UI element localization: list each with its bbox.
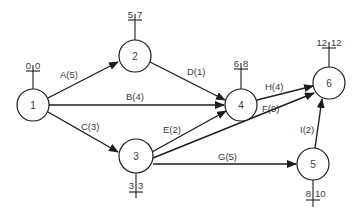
edge-label-h: H(4) (265, 81, 283, 92)
time-marker-node-5: 8 10 (306, 180, 326, 207)
time-marker-node-6: 12 12 (316, 37, 341, 67)
time-markers: 0 0 5 7 6 8 12 12 3 3 (26, 9, 342, 207)
late-time-2: 7 (137, 9, 142, 20)
early-time-5: 8 (306, 188, 311, 199)
early-time-1: 0 (26, 60, 31, 71)
node-4: 4 (225, 89, 257, 121)
edge-label-b: B(4) (126, 91, 144, 102)
late-time-1: 0 (35, 60, 40, 71)
edge-label-g: G(5) (218, 151, 237, 162)
node-label-6: 6 (326, 78, 332, 89)
early-time-2: 5 (128, 9, 133, 20)
node-label-3: 3 (133, 151, 139, 162)
time-marker-node-1: 0 0 (26, 60, 41, 89)
time-marker-node-4: 6 8 (234, 58, 249, 89)
node-label-1: 1 (30, 100, 36, 111)
network-diagram: A(5) B(4) C(3) D(1) E(2) F(9) G(5) H(4) … (0, 0, 358, 213)
node-6: 6 (313, 67, 345, 99)
edge-label-c: C(3) (81, 121, 99, 132)
time-marker-node-3: 3 3 (129, 173, 144, 198)
edge-label-e: E(2) (163, 124, 181, 135)
node-2: 2 (119, 40, 151, 72)
edge-i (315, 99, 322, 148)
early-time-3: 3 (129, 180, 134, 191)
late-time-3: 3 (138, 180, 143, 191)
node-label-5: 5 (310, 159, 316, 170)
early-time-6: 12 (316, 37, 327, 48)
edge-a (48, 62, 118, 98)
node-5: 5 (297, 148, 329, 180)
node-label-2: 2 (132, 51, 138, 62)
edge-label-d: D(1) (187, 66, 205, 77)
edge-c (48, 112, 118, 152)
edges (48, 62, 322, 164)
edge-label-i: I(2) (300, 124, 314, 135)
node-3: 3 (119, 139, 153, 173)
late-time-6: 12 (331, 37, 342, 48)
node-label-4: 4 (238, 100, 244, 111)
edge-label-f: F(9) (262, 103, 279, 114)
edge-label-a: A(5) (60, 69, 78, 80)
late-time-5: 10 (315, 188, 326, 199)
nodes: 1 2 3 4 5 6 (17, 40, 345, 180)
node-1: 1 (17, 89, 49, 121)
early-time-4: 6 (234, 58, 239, 69)
time-marker-node-2: 5 7 (128, 9, 143, 40)
late-time-4: 8 (243, 58, 248, 69)
